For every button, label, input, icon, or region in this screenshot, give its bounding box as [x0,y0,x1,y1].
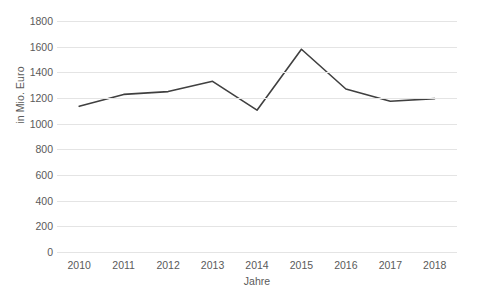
gridline [57,201,457,202]
gridline [57,175,457,176]
data-line-series [57,21,457,252]
x-axis-title: Jahre [57,274,457,288]
gridline [57,124,457,125]
y-tick-label: 1200 [7,92,53,104]
x-tick-label: 2018 [405,258,465,272]
plot-area [57,21,457,252]
series-in-mio-euro [79,49,435,110]
y-tick-label: 600 [7,169,53,181]
y-axis-tick-labels: 020040060080010001200140016001800 [0,0,53,298]
gridline [57,72,457,73]
gridline [57,98,457,99]
gridline [57,21,457,22]
gridline [57,47,457,48]
gridline [57,252,457,253]
y-tick-label: 400 [7,195,53,207]
gridline [57,226,457,227]
gridline [57,149,457,150]
y-tick-label: 800 [7,143,53,155]
y-tick-label: 1800 [7,15,53,27]
y-tick-label: 200 [7,220,53,232]
x-axis-tick-labels: 201020112012201320142015201620172018 [57,258,457,272]
y-tick-label: 1000 [7,118,53,130]
y-tick-label: 1400 [7,66,53,78]
line-chart: in Mio. Euro 020040060080010001200140016… [0,0,483,298]
y-tick-label: 0 [7,246,53,258]
y-tick-label: 1600 [7,41,53,53]
